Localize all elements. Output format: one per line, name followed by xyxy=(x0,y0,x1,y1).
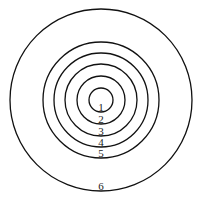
label-2: 2 xyxy=(98,113,104,125)
concentric-circles-diagram: 1 2 3 4 5 6 xyxy=(0,0,199,205)
label-6: 6 xyxy=(98,180,104,192)
label-5: 5 xyxy=(98,147,104,159)
ring-6 xyxy=(10,9,192,191)
label-1: 1 xyxy=(98,101,104,113)
